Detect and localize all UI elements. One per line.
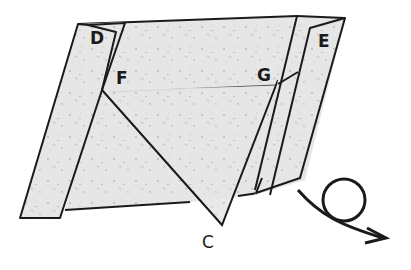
folded-paper-illustration bbox=[0, 0, 411, 270]
label-g: G bbox=[257, 67, 271, 84]
label-c: C bbox=[202, 234, 214, 251]
label-f: F bbox=[116, 70, 128, 87]
origami-diagram: D F G E C bbox=[0, 0, 411, 270]
label-e: E bbox=[318, 33, 330, 50]
label-d: D bbox=[90, 30, 104, 47]
turn-over-icon bbox=[298, 179, 386, 243]
